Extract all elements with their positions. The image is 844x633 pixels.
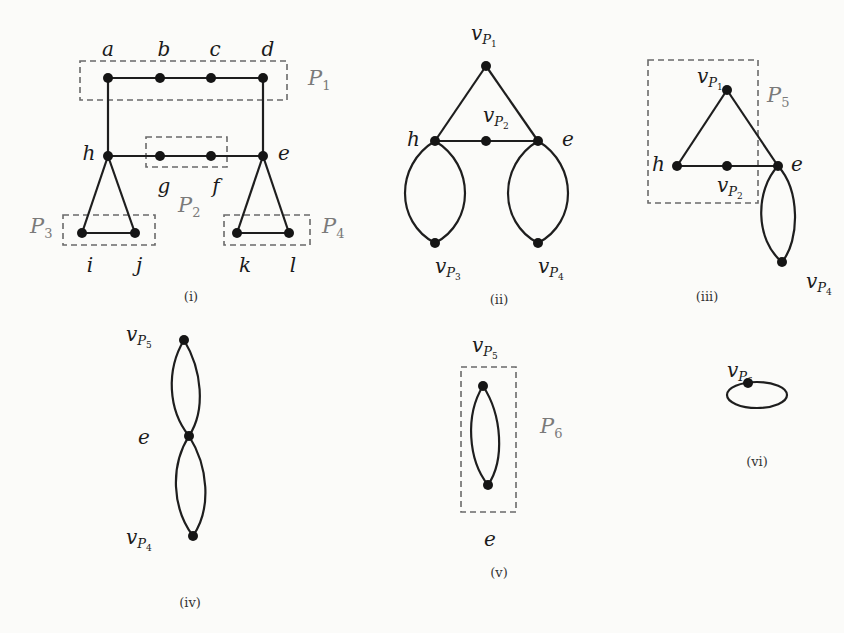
label-b: b <box>158 37 171 61</box>
label-e: e <box>484 527 496 551</box>
group-label-p2: P2 <box>177 193 200 220</box>
panel-v: vP5 e P6 (v) <box>461 333 562 580</box>
label-vp1: vP1 <box>697 64 723 92</box>
label-vp5: vP5 <box>472 333 498 361</box>
vertex-c <box>206 73 216 83</box>
label-vp2: vP2 <box>483 103 509 131</box>
label-a: a <box>102 37 114 61</box>
group-box-p3 <box>63 215 155 245</box>
caption-iv: (iv) <box>179 595 201 610</box>
vertex-vp2 <box>722 161 732 171</box>
vertex-e <box>533 136 543 146</box>
vertex-e <box>258 151 268 161</box>
vertex-vp5 <box>179 335 189 345</box>
vertex-b <box>155 73 165 83</box>
vertex-vp1 <box>481 61 491 71</box>
vertex-e <box>184 431 194 441</box>
edges-v <box>471 386 499 485</box>
label-h: h <box>652 152 665 176</box>
label-k: k <box>239 253 251 277</box>
label-vp3: vP3 <box>435 254 461 282</box>
group-box-p6 <box>461 367 516 512</box>
group-label-p6: P6 <box>539 414 562 441</box>
group-label-p3: P3 <box>29 214 52 241</box>
caption-i: (i) <box>184 289 198 304</box>
vertex-j <box>130 228 140 238</box>
caption-v: (v) <box>490 565 508 580</box>
label-e: e <box>562 127 574 151</box>
panel-ii: vP1 vP2 h e vP3 vP4 (ii) <box>405 21 574 307</box>
panel-iv: vP5 e vP4 (iv) <box>126 322 205 610</box>
group-label-p4: P4 <box>321 214 344 241</box>
vertex-f <box>206 151 216 161</box>
panel-iii: vP1 h vP2 e vP4 P5 (iii) <box>648 60 832 304</box>
caption-vi: (vi) <box>746 454 768 469</box>
label-d: d <box>262 37 275 61</box>
vertex-a <box>103 73 113 83</box>
label-f: f <box>210 174 223 198</box>
label-vp4: vP4 <box>538 254 564 282</box>
label-vp4: vP4 <box>126 525 152 553</box>
vertex-h <box>103 151 113 161</box>
group-label-p5: P5 <box>766 83 789 110</box>
panel-i: a b c d h g f e i j k l P1 P2 P3 P4 (i) <box>29 37 344 304</box>
label-e: e <box>791 152 803 176</box>
label-g: g <box>158 174 171 198</box>
vertex-l <box>284 228 294 238</box>
label-vp6: vP6 <box>727 358 753 386</box>
panel-vi: vP6 (vi) <box>727 358 787 469</box>
vertex-g <box>155 151 165 161</box>
vertex-e <box>773 161 783 171</box>
label-vp4: vP4 <box>806 269 832 297</box>
vertex-k <box>232 228 242 238</box>
vertex-i <box>77 228 87 238</box>
label-e: e <box>138 425 150 449</box>
label-h: h <box>83 141 96 165</box>
label-e: e <box>278 141 290 165</box>
vertex-d <box>258 73 268 83</box>
vertex-vp1 <box>722 85 732 95</box>
label-i: i <box>87 253 93 277</box>
vertex-vp4 <box>188 531 198 541</box>
vertex-vp2 <box>481 136 491 146</box>
label-c: c <box>209 37 220 61</box>
label-vp1: vP1 <box>471 21 497 49</box>
loop-edge <box>727 382 787 408</box>
caption-iii: (iii) <box>696 289 719 304</box>
edges-iii <box>677 90 795 262</box>
vertex-vp4 <box>777 257 787 267</box>
label-h: h <box>407 127 420 151</box>
vertex-vp4 <box>533 238 543 248</box>
group-label-p1: P1 <box>307 66 330 93</box>
label-vp2: vP2 <box>717 173 743 201</box>
vertex-vp5 <box>478 381 488 391</box>
label-l: l <box>290 253 296 277</box>
label-vp5: vP5 <box>126 322 152 350</box>
vertex-h <box>672 161 682 171</box>
vertex-e <box>483 480 493 490</box>
vertex-h <box>430 136 440 146</box>
caption-ii: (ii) <box>490 292 508 307</box>
label-j: j <box>132 253 142 277</box>
vertex-vp3 <box>430 238 440 248</box>
edges-ii <box>405 66 568 243</box>
